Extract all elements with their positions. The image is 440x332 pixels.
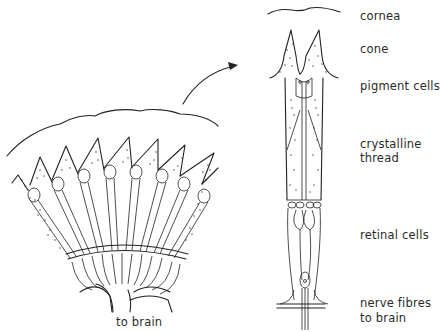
label-thread: thread (360, 151, 399, 165)
cones-left (12, 137, 218, 190)
label-retinal-cells: retinal cells (360, 228, 429, 242)
left-eye-section (7, 110, 218, 312)
label-nerve-fibres: nerve fibres (360, 296, 431, 310)
label-cone: cone (360, 42, 389, 56)
label-to-brain-left: to brain (116, 315, 162, 329)
label-pigment-cells: pigment cells (360, 79, 440, 93)
label-to-brain-right: to brain (360, 311, 406, 325)
right-ommatidium (268, 8, 340, 331)
arrow-icon (183, 62, 238, 104)
label-cornea: cornea (360, 9, 401, 23)
label-crystalline: crystalline (360, 137, 422, 151)
